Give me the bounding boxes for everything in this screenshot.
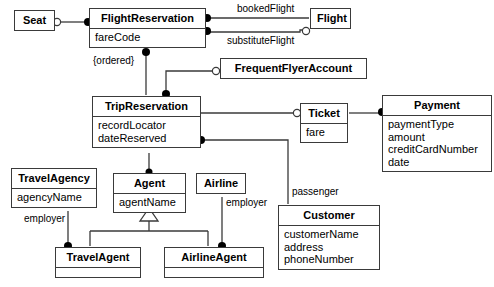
class-seat-name: Seat	[15, 11, 54, 30]
class-seat[interactable]: Seat	[14, 10, 55, 31]
class-frequentflyeraccount-name: FrequentFlyerAccount	[221, 59, 366, 78]
class-airlineagent-name: AirlineAgent	[165, 248, 263, 267]
class-payment-name: Payment	[383, 96, 491, 115]
edge-label-passenger: passenger	[292, 186, 339, 197]
class-agent-attributes: agentName	[114, 193, 185, 212]
class-frequentflyeraccount[interactable]: FrequentFlyerAccount	[220, 58, 367, 79]
class-flight-name: Flight	[311, 9, 350, 28]
edge-label-employer-airline: employer	[226, 197, 267, 208]
attribute: address	[284, 241, 374, 254]
class-travelagent[interactable]: TravelAgent	[55, 247, 141, 278]
class-ticket[interactable]: Ticket fare	[300, 103, 348, 143]
edge-label-substituteflight: substituteFlight	[227, 35, 294, 46]
class-travelagency-name: TravelAgency	[12, 169, 96, 188]
class-tripreservation-name: TripReservation	[93, 97, 200, 116]
edge-label-employer-travelagency: employer	[24, 213, 65, 224]
attribute: dateReserved	[98, 132, 195, 145]
class-tripreservation-attributes: recordLocator dateReserved	[93, 116, 200, 147]
class-travelagent-name: TravelAgent	[56, 248, 140, 267]
class-tripreservation[interactable]: TripReservation recordLocator dateReserv…	[92, 96, 201, 148]
edge-label-ordered: {ordered}	[93, 55, 134, 66]
attribute: agentName	[119, 196, 180, 209]
class-ticket-attributes: fare	[301, 123, 347, 142]
class-flightreservation[interactable]: FlightReservation fareCode	[89, 8, 206, 48]
class-airline-name: Airline	[197, 174, 245, 193]
class-flightreservation-name: FlightReservation	[90, 9, 205, 28]
class-payment-attributes: paymentType amount creditCardNumber date	[383, 115, 491, 171]
uml-class-diagram: Seat FlightReservation fareCode Flight F…	[0, 0, 494, 287]
class-flightreservation-attributes: fareCode	[90, 28, 205, 47]
edge-label-bookedflight: bookedFlight	[237, 3, 294, 14]
class-agent[interactable]: Agent agentName	[113, 173, 186, 213]
attribute: paymentType	[388, 118, 486, 131]
class-payment[interactable]: Payment paymentType amount creditCardNum…	[382, 95, 492, 172]
attribute: phoneNumber	[284, 253, 374, 266]
class-flight[interactable]: Flight	[310, 8, 351, 29]
class-travelagency[interactable]: TravelAgency agencyName	[11, 168, 97, 208]
attribute: fareCode	[95, 31, 200, 44]
attribute: customerName	[284, 228, 374, 241]
class-customer-attributes: customerName address phoneNumber	[279, 225, 379, 269]
attribute: amount	[388, 131, 486, 144]
assoc-passenger	[201, 140, 288, 204]
attribute: agencyName	[17, 191, 91, 204]
attribute: fare	[306, 126, 342, 139]
attribute: creditCardNumber	[388, 143, 486, 156]
class-travelagent-attributes	[56, 267, 140, 277]
class-airlineagent[interactable]: AirlineAgent	[164, 247, 264, 278]
attribute: recordLocator	[98, 119, 195, 132]
assoc-substituteflight	[206, 30, 309, 32]
class-customer-name: Customer	[279, 206, 379, 225]
attribute: date	[388, 156, 486, 169]
assoc-frequentflyeraccount	[166, 71, 219, 95]
class-agent-name: Agent	[114, 174, 185, 193]
class-ticket-name: Ticket	[301, 104, 347, 123]
class-airlineagent-attributes	[165, 267, 263, 277]
class-airline[interactable]: Airline	[196, 173, 246, 194]
class-travelagency-attributes: agencyName	[12, 188, 96, 207]
class-customer[interactable]: Customer customerName address phoneNumbe…	[278, 205, 380, 270]
